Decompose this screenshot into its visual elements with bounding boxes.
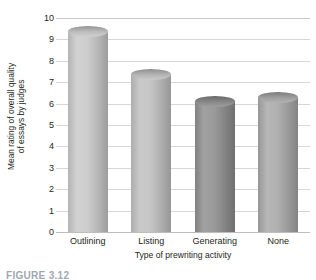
x-tick-label-listing: Listing [138,236,164,246]
bar-top-ellipse [68,26,108,37]
x-tick-label-generating: Generating [192,236,237,246]
bar-body [68,31,108,232]
y-tick-label-0: 0 [49,227,54,237]
bar-body [258,97,298,232]
y-tick-label-4: 4 [49,141,54,151]
y-axis-title: Mean rating of overall quality of essays… [0,0,34,232]
x-axis-tick-labels: OutliningListingGeneratingNone [56,236,310,250]
bar-body [131,74,171,232]
y-axis-tick-labels: 109876543210 [36,18,56,232]
y-tick-label-1: 1 [49,206,54,216]
x-axis-title: Type of prewriting activity [56,250,310,260]
x-tick-label-outlining: Outlining [70,236,106,246]
figure-caption: FIGURE 3.12 [6,270,69,280]
y-tick-label-8: 8 [49,56,54,66]
figure-container: Mean rating of overall quality of essays… [0,0,316,280]
bar-body [195,101,235,232]
y-tick-label-10: 10 [44,13,54,23]
bar-top-ellipse [131,69,171,80]
y-tick-label-2: 2 [49,184,54,194]
y-tick-label-7: 7 [49,77,54,87]
y-tick-label-6: 6 [49,99,54,109]
bar-listing [131,74,171,232]
y-axis-title-line-2: of essays by judges [17,62,27,169]
bar-series [56,18,310,232]
bar-generating [195,101,235,232]
y-tick-label-3: 3 [49,163,54,173]
y-axis-title-line-1: Mean rating of overall quality [7,62,17,169]
plot-area [56,18,310,232]
bar-none [258,97,298,232]
bar-outlining [68,31,108,232]
y-tick-label-5: 5 [49,120,54,130]
y-tick-label-9: 9 [49,34,54,44]
gridline-0 [56,232,310,233]
x-tick-label-none: None [267,236,289,246]
